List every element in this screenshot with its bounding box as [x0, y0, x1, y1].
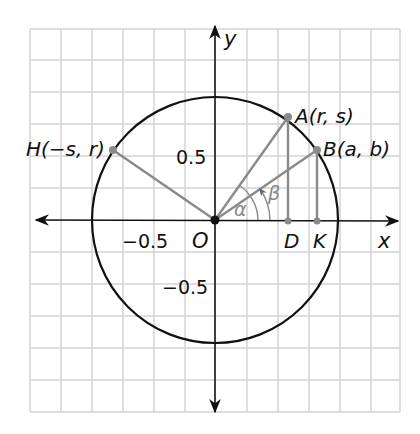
alpha-label: α — [234, 198, 247, 220]
point-D-label: D — [284, 229, 299, 253]
beta-label: β — [267, 182, 280, 204]
x-axis-label: x — [377, 229, 391, 253]
tick-y-neg: −0.5 — [162, 276, 208, 298]
y-axis-label: y — [223, 27, 237, 51]
point-origin — [211, 216, 220, 225]
point-H-label: H(−s, r) — [26, 137, 105, 161]
point-K-label: K — [313, 229, 328, 253]
segment-OB — [215, 150, 317, 220]
unit-circle-diagram: y x O A(r, s) B(a, b) H(−s, r) D K −0.5 … — [0, 0, 420, 434]
point-A-label: A(r, s) — [293, 104, 354, 128]
point-H — [109, 146, 117, 154]
point-B-label: B(a, b) — [323, 137, 390, 161]
segment-OA — [215, 117, 288, 220]
point-A — [284, 113, 292, 121]
point-B — [313, 146, 321, 154]
origin-label: O — [192, 229, 209, 253]
point-D — [285, 218, 292, 225]
tick-y-pos: 0.5 — [176, 146, 206, 168]
point-K — [314, 218, 321, 225]
tick-x-neg: −0.5 — [122, 230, 168, 252]
